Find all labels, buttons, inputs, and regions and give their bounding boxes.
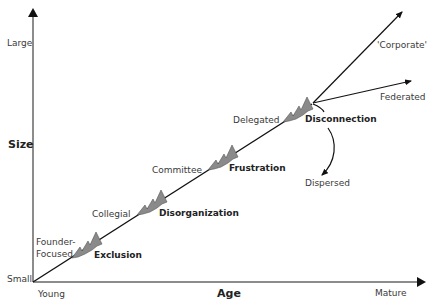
- y-axis-bottom-label: Small: [7, 274, 32, 285]
- outcome-label-dispersed: Dispersed: [305, 178, 350, 189]
- stage-label-committee: Committee: [152, 165, 202, 176]
- y-axis-arrow-icon: [28, 8, 38, 17]
- x-axis-left-label: Young: [38, 289, 65, 300]
- disconnection-hook: [313, 104, 324, 112]
- outcome-label-corporate: 'Corporate': [377, 40, 427, 51]
- stage-label-founder-line1: Founder-: [36, 237, 75, 248]
- crisis-label-frustration: Frustration: [229, 163, 286, 174]
- y-axis-title: Size: [8, 139, 34, 150]
- y-axis-top-label: Large: [7, 38, 32, 49]
- crisis-label-exclusion: Exclusion: [94, 250, 142, 261]
- x-axis-right-label: Mature: [375, 288, 407, 299]
- stage-label-founder-line2: Focused: [36, 249, 73, 260]
- stage-label-delegated: Delegated: [233, 115, 280, 126]
- x-axis-arrow-icon: [417, 277, 426, 287]
- x-axis-title: Age: [217, 288, 241, 299]
- stage-label-collegial: Collegial: [92, 209, 131, 220]
- crisis-label-disconnection: Disconnection: [305, 114, 377, 125]
- outcome-label-federated: Federated: [380, 92, 425, 103]
- crisis-label-disorganization: Disorganization: [159, 208, 239, 219]
- corporate-branch-arrow: [313, 12, 402, 103]
- diagram-canvas: [0, 0, 431, 307]
- dispersed-branch-arrow: [322, 128, 334, 175]
